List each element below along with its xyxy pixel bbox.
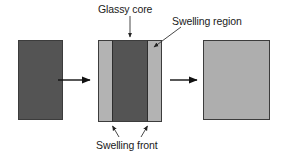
swelling-region-leader-line	[154, 27, 181, 47]
diagram-canvas: Glassy core Swelling region Swelling fro…	[0, 0, 283, 160]
label-glassy-core: Glassy core	[98, 3, 152, 15]
swelling-front-leader-line-left	[113, 126, 120, 137]
swelling-front-leader-line-right	[141, 126, 148, 137]
stage-3-fully-swollen	[204, 41, 270, 120]
label-swelling-region: Swelling region	[172, 15, 242, 27]
stage-1-glassy-core	[19, 41, 63, 120]
label-swelling-front: Swelling front	[96, 139, 158, 151]
stage-3-swelling-region	[204, 41, 270, 120]
stage-2-swelling-region-right	[148, 41, 162, 122]
stage-1-dry-tablet	[19, 41, 63, 120]
stage-2-partially-swollen	[99, 41, 162, 122]
stage-2-glassy-core	[113, 41, 148, 122]
stage-2-swelling-region-left	[99, 41, 113, 122]
